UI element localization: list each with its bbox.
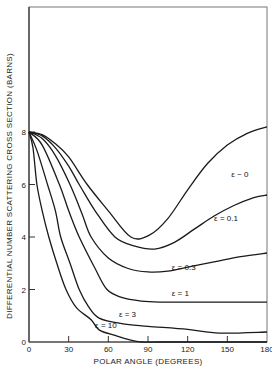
y-tick-label: 2 xyxy=(22,286,27,295)
x-tick-label: 120 xyxy=(181,345,195,354)
series-curve-5 xyxy=(29,132,267,333)
x-tick-label: 150 xyxy=(221,345,235,354)
curve-label: ε = 3 xyxy=(119,310,137,319)
curve-labels: ε ~ 0ε = 0.1ε = 0.3ε = 1ε = 3ε = 10 xyxy=(95,170,249,330)
x-tick-label: 90 xyxy=(144,345,153,354)
x-tick-label: 180 xyxy=(260,345,272,354)
x-tick-label: 0 xyxy=(27,345,32,354)
curve-label: ε = 1 xyxy=(172,289,190,298)
series-curve-6 xyxy=(29,132,267,342)
curve-label: ε = 0.3 xyxy=(172,263,196,272)
series-curve-2 xyxy=(29,132,267,249)
x-ticks: 0306090120150180 xyxy=(27,336,272,354)
chart: 0306090120150180 02468 ε ~ 0ε = 0.1ε = 0… xyxy=(0,0,272,370)
curves xyxy=(29,127,267,342)
curve-label: ε = 0.1 xyxy=(214,214,238,223)
y-tick-label: 4 xyxy=(22,233,27,242)
curve-label: ε = 10 xyxy=(95,321,117,330)
x-axis-title: POLAR ANGLE (DEGREES) xyxy=(94,357,203,366)
y-tick-label: 0 xyxy=(22,338,27,347)
x-tick-label: 60 xyxy=(104,345,113,354)
y-tick-label: 8 xyxy=(22,128,27,137)
y-tick-label: 6 xyxy=(22,181,27,190)
y-ticks: 02468 xyxy=(22,128,35,347)
y-axis-title: DIFFERENTIAL NUMBER SCATTERING CROSS SEC… xyxy=(5,53,14,319)
x-tick-label: 30 xyxy=(64,345,73,354)
curve-label: ε ~ 0 xyxy=(231,170,249,179)
